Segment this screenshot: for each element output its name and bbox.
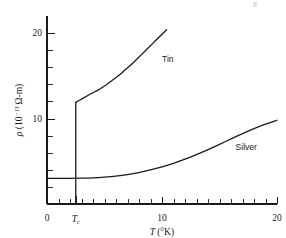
x-axis-title: T(°K) bbox=[150, 227, 174, 238]
silver-series-label: Silver bbox=[236, 142, 257, 152]
y-axis-ticks bbox=[47, 34, 55, 188]
chart-canvas: 01020 1020 Tc Tin Silver T(°K) ρ(10−11Ω-… bbox=[0, 0, 286, 238]
y-axis-title: ρ(10−11Ω-m) bbox=[13, 84, 26, 137]
x-tick-label: 20 bbox=[272, 213, 282, 223]
axes-group bbox=[47, 16, 277, 204]
x-tick-label: 10 bbox=[157, 213, 167, 223]
y-axis-tick-labels: 1020 bbox=[33, 28, 43, 123]
y-tick-label: 20 bbox=[33, 28, 43, 38]
tin-curve bbox=[76, 30, 167, 103]
x-axis-ticks bbox=[48, 196, 278, 204]
x-axis-tick-labels: 01020 bbox=[45, 213, 282, 223]
y-tick-label: 10 bbox=[33, 114, 43, 124]
x-tick-label: 0 bbox=[45, 213, 50, 223]
critical-temperature-label: Tc bbox=[72, 214, 80, 225]
tin-series-label: Tin bbox=[162, 54, 174, 64]
